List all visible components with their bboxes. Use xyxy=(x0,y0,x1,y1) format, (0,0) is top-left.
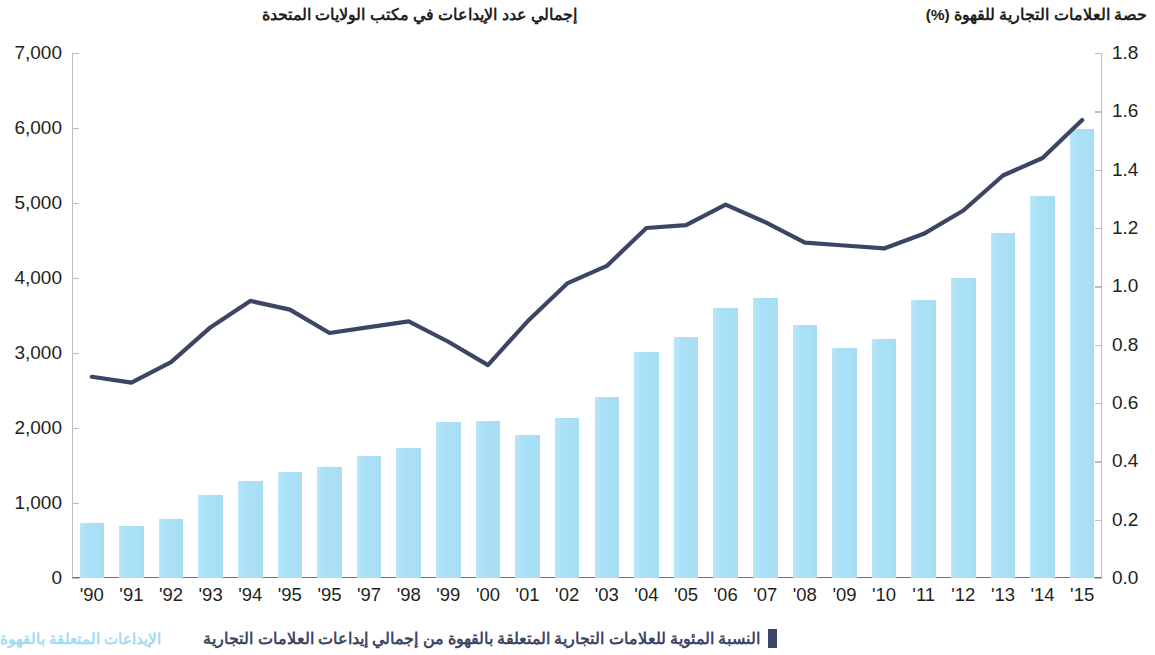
legend-label-bars: الإيداعات المتعلقة بالقهوة xyxy=(0,630,161,648)
x-axis-tick-label: '91 xyxy=(112,586,152,605)
x-axis-tick-label: '13 xyxy=(983,586,1023,605)
x-axis-tick-label: '14 xyxy=(1023,586,1063,605)
x-axis-tick-label: '09 xyxy=(825,586,865,605)
right-axis-tick-label: 1.4 xyxy=(1112,160,1138,179)
x-axis-tick-label: '12 xyxy=(944,586,984,605)
x-axis-tick-label: '93 xyxy=(191,586,231,605)
left-axis-tick-label: 0 xyxy=(0,568,62,587)
right-axis-title: حصة العلامات التجارية للقهوة (%) xyxy=(926,6,1147,24)
x-axis-tick-label: '04 xyxy=(627,586,667,605)
x-axis-tick-label: '98 xyxy=(389,586,429,605)
right-axis-tick-label: 0.2 xyxy=(1112,510,1138,529)
left-axis-tick-label: 1,000 xyxy=(0,493,62,512)
x-axis-tick-label: '08 xyxy=(785,586,825,605)
x-axis-tick-label: '15 xyxy=(1062,586,1102,605)
x-axis-tick-label: '92 xyxy=(151,586,191,605)
left-axis-tick-label: 2,000 xyxy=(0,418,62,437)
left-axis-tick-label: 6,000 xyxy=(0,118,62,137)
right-axis-tick-label: 0.0 xyxy=(1112,568,1138,587)
right-axis-tick-label: 0.6 xyxy=(1112,393,1138,412)
x-axis-tick-label: '95 xyxy=(270,586,310,605)
legend-label-line: النسبة المئوية للعلامات التجارية المتعلق… xyxy=(203,630,760,648)
right-axis-tick-label: 1.8 xyxy=(1112,43,1138,62)
x-axis-tick-label: '95 xyxy=(310,586,350,605)
left-axis-tick-mark xyxy=(72,578,79,579)
left-axis-tick-label: 3,000 xyxy=(0,343,62,362)
legend-entry-bars: الإيداعات المتعلقة بالقهوة xyxy=(0,630,161,648)
chart-legend: النسبة المئوية للعلامات التجارية المتعلق… xyxy=(0,622,1155,655)
x-axis-tick-label: '02 xyxy=(547,586,587,605)
left-axis-tick-label: 4,000 xyxy=(0,268,62,287)
chart-plot-area xyxy=(72,53,1102,578)
x-axis-tick-label: '90 xyxy=(72,586,112,605)
left-axis-tick-label: 5,000 xyxy=(0,193,62,212)
x-axis-tick-label: '97 xyxy=(349,586,389,605)
x-axis-tick-label: '03 xyxy=(587,586,627,605)
x-axis-tick-label: '94 xyxy=(230,586,270,605)
x-axis-tick-label: '99 xyxy=(429,586,469,605)
coffee-share-trend-line xyxy=(92,120,1082,383)
x-axis-tick-label: '11 xyxy=(904,586,944,605)
left-axis-tick-label: 7,000 xyxy=(0,43,62,62)
legend-swatch-line-icon xyxy=(768,629,777,648)
line-series-layer xyxy=(72,53,1102,578)
x-axis-tick-label: '00 xyxy=(468,586,508,605)
right-axis-tick-label: 1.2 xyxy=(1112,218,1138,237)
x-axis-tick-label: '07 xyxy=(745,586,785,605)
legend-entry-line: النسبة المئوية للعلامات التجارية المتعلق… xyxy=(203,629,777,648)
right-axis-tick-mark xyxy=(1095,578,1102,579)
right-axis-tick-label: 1.6 xyxy=(1112,101,1138,120)
x-axis-tick-label: '10 xyxy=(864,586,904,605)
x-axis-tick-label: '06 xyxy=(706,586,746,605)
right-axis-tick-label: 0.4 xyxy=(1112,451,1138,470)
right-axis-tick-label: 0.8 xyxy=(1112,335,1138,354)
x-axis-tick-label: '01 xyxy=(508,586,548,605)
right-axis-tick-label: 1.0 xyxy=(1112,276,1138,295)
x-axis-tick-label: '05 xyxy=(666,586,706,605)
left-axis-title: إجمالي عدد الإيداعات في مكتب الولايات ال… xyxy=(262,6,577,24)
